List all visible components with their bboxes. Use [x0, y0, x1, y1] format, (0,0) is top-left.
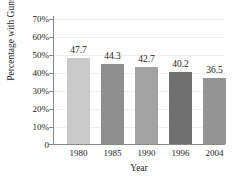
x-axis-tick-label: 2004: [194, 148, 235, 158]
bar[interactable]: 47.7: [67, 58, 90, 144]
gridline: [54, 37, 225, 38]
gridline: [54, 19, 225, 20]
x-axis-line: [53, 144, 225, 145]
plot-area: 47.7 44.3 42.7 40.2 36.5: [53, 16, 225, 145]
y-axis-tickmark: [49, 144, 53, 145]
y-axis-tick-label: 50%: [16, 50, 49, 60]
y-axis-tick-label: 60%: [16, 32, 49, 42]
y-axis-tick-label: 70%: [16, 14, 49, 24]
x-axis-tick-labels: 1980 1985 1990 1996 2004: [53, 148, 225, 162]
y-axis-tickmark: [49, 109, 53, 110]
y-axis-tickmark: [49, 73, 53, 74]
y-axis-line: [53, 16, 54, 145]
chart-figure: Guns in Gang Homes Percentage with Guns …: [0, 0, 242, 182]
y-axis-tickmark: [49, 55, 53, 56]
bar-value-label: 36.5: [194, 65, 235, 75]
y-axis-tickmark: [49, 91, 53, 92]
y-axis-tick-label: 40%: [16, 68, 49, 78]
y-axis-tickmark: [49, 37, 53, 38]
y-axis-tick-label: 30%: [16, 86, 49, 96]
bar[interactable]: 44.3: [101, 64, 124, 144]
x-axis-title: Year: [53, 163, 225, 173]
y-axis-tick-label: 20%: [16, 104, 49, 114]
y-axis-tick-label: 0: [16, 140, 49, 150]
bar[interactable]: 42.7: [135, 67, 158, 144]
bar[interactable]: 36.5: [203, 78, 226, 144]
y-axis-tick-label: 10%: [16, 122, 49, 132]
y-axis-tick-labels: 70% 60% 50% 40% 30% 20% 10% 0: [16, 0, 49, 182]
y-axis-tickmark: [49, 127, 53, 128]
bar[interactable]: 40.2: [169, 72, 192, 144]
y-axis-tickmark: [49, 19, 53, 20]
y-axis-title: Percentage with Guns: [6, 0, 16, 98]
